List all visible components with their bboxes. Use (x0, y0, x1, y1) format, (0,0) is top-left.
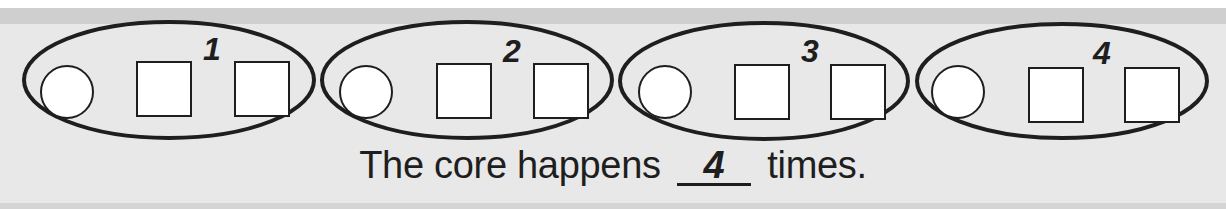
circle-shape (340, 66, 392, 118)
circle-shape (41, 66, 93, 118)
pattern-group-1: 1 (24, 22, 314, 138)
square-shape (235, 62, 289, 116)
square-shape (1125, 68, 1179, 122)
sentence-suffix: times. (767, 144, 867, 186)
square-shape (137, 62, 191, 116)
square-shape (437, 64, 491, 118)
pattern-group-2: 2 (322, 22, 612, 138)
circle-shape (639, 66, 691, 118)
group-number: 1 (203, 31, 221, 67)
square-shape (1029, 68, 1083, 122)
answer-blank[interactable]: 4 (677, 147, 751, 186)
circle-shape (932, 66, 984, 118)
pattern-group-3: 3 (620, 23, 908, 139)
group-number: 4 (1092, 35, 1111, 71)
sentence-prefix: The core happens (359, 144, 661, 186)
group-number: 3 (801, 33, 819, 69)
pattern-group-4: 4 (917, 24, 1207, 138)
square-shape (735, 65, 789, 119)
answer-sentence: The core happens 4 times. (0, 144, 1226, 187)
square-shape (831, 65, 885, 119)
group-number: 2 (502, 33, 521, 69)
square-shape (534, 64, 588, 118)
